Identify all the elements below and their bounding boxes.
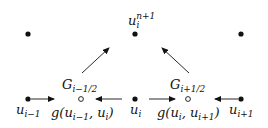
label-part: , u — [182, 105, 199, 120]
label-sup: n+1 — [136, 11, 155, 21]
label-sub: i — [138, 109, 141, 119]
label-sub: i+1/2 — [180, 84, 205, 94]
label-part: g(u — [157, 105, 179, 120]
label-sub: i+1 — [237, 109, 253, 119]
label-sub: i+1 — [198, 112, 214, 122]
label-sub: i−1 — [73, 112, 89, 122]
label-G-right: Gi+1/2 — [170, 78, 205, 94]
label-g-right: g(ui, ui+1) — [157, 106, 220, 122]
node-top-left — [25, 31, 30, 36]
arrow-G-left-to-top — [82, 48, 109, 73]
label-part: g(u — [51, 105, 73, 120]
label-part: ) — [214, 105, 219, 120]
node-u-i — [132, 96, 137, 101]
label-u-i: ui — [130, 103, 141, 119]
label-u-i-n-plus-1: uin+1 — [128, 12, 155, 30]
node-u-i-minus-1 — [25, 96, 30, 101]
label-part: , u — [89, 105, 106, 120]
label-u-i-plus-1: ui+1 — [229, 103, 254, 119]
label-part: ) — [108, 105, 113, 120]
label-u-i-minus-1: ui−1 — [16, 103, 41, 119]
label-sub: i−1/2 — [72, 84, 97, 94]
node-u-i-plus-1 — [238, 96, 243, 101]
node-flux-left — [79, 97, 84, 102]
label-sub: i — [136, 20, 139, 30]
label-sub: i−1 — [24, 109, 40, 119]
arrow-G-right-to-top — [162, 48, 189, 73]
node-flux-right — [186, 97, 191, 102]
label-base: G — [62, 77, 72, 92]
stencil-diagram: uin+1 Gi−1/2 Gi+1/2 ui−1 ui ui+1 g(ui−1,… — [0, 0, 268, 128]
node-top-right — [238, 31, 243, 36]
node-top-center — [132, 31, 137, 36]
label-base: G — [170, 77, 180, 92]
label-g-left: g(ui−1, ui) — [51, 106, 114, 122]
label-G-left: Gi−1/2 — [62, 78, 97, 94]
